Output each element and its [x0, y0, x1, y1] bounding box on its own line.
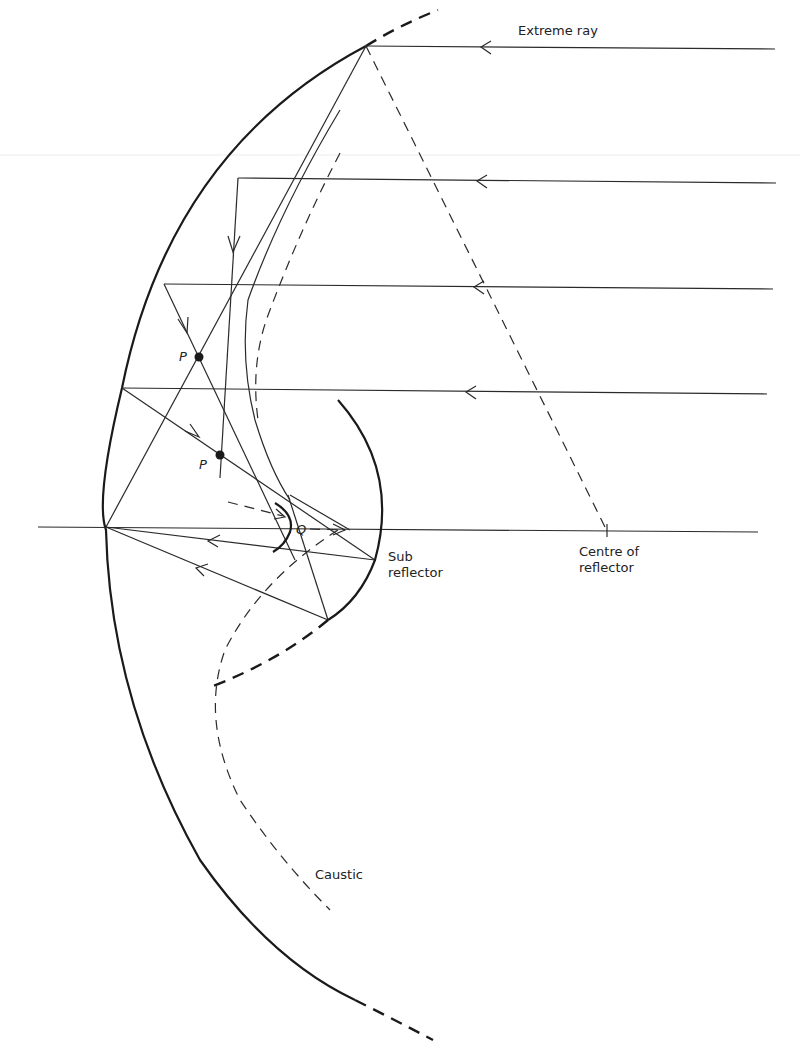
sub-reflector-dashed-extension [213, 620, 328, 686]
label-centre-1: Centre of [579, 544, 640, 559]
label-sub-reflector-2: reflector [388, 565, 443, 580]
caustic-envelope [245, 110, 340, 500]
point-p1-marker [195, 353, 204, 362]
reflected-ray-extreme [106, 46, 366, 527]
main-reflector-bottom-extension [355, 1000, 433, 1040]
radius-line-to-centre [366, 46, 607, 531]
sub-reflector [328, 400, 382, 620]
point-p2-marker [216, 451, 225, 460]
label-point-p1: P [179, 349, 187, 364]
label-centre-2: reflector [579, 560, 634, 575]
main-reflector-top-extension [366, 10, 438, 46]
label-point-p2: P [199, 457, 207, 472]
incident-ray-extreme [366, 46, 775, 49]
label-extreme-ray: Extreme ray [518, 23, 598, 38]
incident-ray-4 [122, 388, 767, 394]
reflector-ray-diagram: Extreme ray Sub reflector Centre of refl… [0, 0, 800, 1064]
caustic-curve-lower [215, 530, 338, 910]
optical-axis [38, 527, 758, 532]
caustic-curve [256, 153, 340, 420]
label-caustic: Caustic [315, 867, 363, 882]
label-sub-reflector-1: Sub [388, 549, 413, 564]
incident-ray-3 [164, 284, 773, 289]
arrow-icon [466, 386, 476, 399]
label-point-q: Q [296, 522, 306, 537]
incident-ray-2 [238, 178, 776, 183]
arrow-icon [474, 281, 484, 294]
arrow-icon [477, 175, 487, 188]
main-reflector [103, 46, 366, 1000]
